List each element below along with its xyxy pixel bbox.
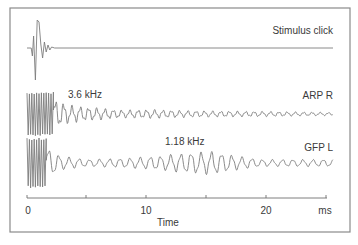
series-label-stimulus: Stimulus click	[272, 25, 334, 36]
series-label-gfp: GFP L	[304, 142, 333, 153]
series-label-arp: ARP R	[303, 90, 333, 101]
x-axis: 0 10 20 ms Time	[25, 195, 331, 228]
frequency-annotation-gfp: 1.18 kHz	[165, 136, 204, 147]
x-unit-label: ms	[318, 205, 331, 216]
x-tick-0: 0	[25, 205, 31, 216]
x-axis-title: Time	[157, 217, 179, 228]
frequency-annotation-arp: 3.6 kHz	[68, 89, 102, 100]
x-tick-20: 20	[260, 205, 272, 216]
x-tick-10: 10	[140, 205, 152, 216]
waveform-chart: Stimulus click ARP R GFP L 3.6 kHz 1.18 …	[0, 0, 358, 245]
